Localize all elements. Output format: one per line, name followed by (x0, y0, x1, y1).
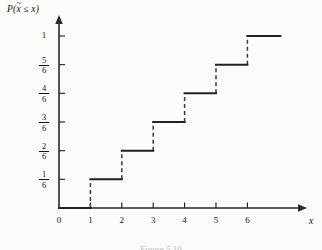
y-tick-label: 56 (36, 56, 52, 75)
fraction-denominator: 6 (36, 123, 52, 132)
y-tick-label: 36 (36, 113, 52, 132)
fraction-denominator: 6 (36, 180, 52, 189)
x-tick-label: 5 (206, 216, 226, 225)
fraction-numerator: 2 (36, 142, 52, 151)
x-tick-label: 3 (143, 216, 163, 225)
y-tick-label: 1 (36, 31, 52, 40)
figure-caption: Figure 5.10 (0, 244, 322, 250)
x-tick-label: 2 (112, 216, 132, 225)
fraction-numerator: 3 (36, 113, 52, 122)
x-tick-marks (90, 203, 247, 209)
fraction-denominator: 6 (36, 66, 52, 75)
y-tick-label: 26 (36, 142, 52, 161)
y-tick-label: 16 (36, 170, 52, 189)
x-tick-label: 6 (237, 216, 257, 225)
axes-group (55, 15, 307, 212)
y-tick-marks (59, 36, 65, 179)
figure-page: P(~x ≤ x) 0123456 16263646561 x Figure 5… (0, 0, 322, 250)
fraction-numerator: 5 (36, 56, 52, 65)
y-axis-arrowhead (55, 15, 63, 24)
y-tick-label: 46 (36, 84, 52, 103)
x-tick-label: 4 (175, 216, 195, 225)
fraction-numerator: 1 (36, 170, 52, 179)
x-tick-label: 1 (80, 216, 100, 225)
x-axis-title: x (309, 216, 313, 226)
fraction-denominator: 6 (36, 152, 52, 161)
fraction-numerator: 4 (36, 84, 52, 93)
fraction-denominator: 6 (36, 94, 52, 103)
x-axis-arrowhead (298, 204, 307, 212)
x-tick-label: 0 (49, 216, 69, 225)
